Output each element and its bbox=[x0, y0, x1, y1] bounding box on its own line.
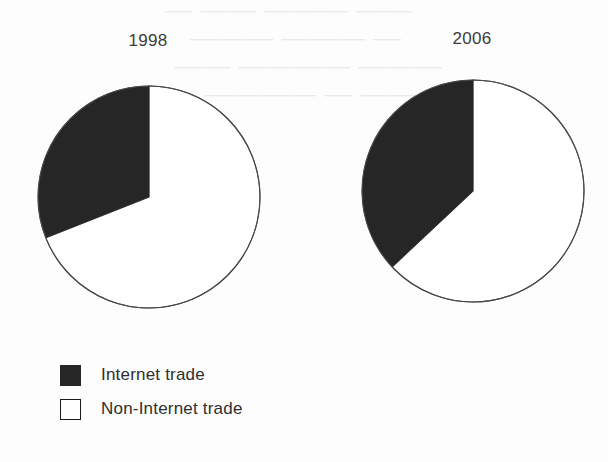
legend-label-non-internet-trade: Non-Internet trade bbox=[101, 399, 243, 419]
figure-canvas: — —— ——— —— ——— ——— — —— ———— ——— ———— —… bbox=[0, 0, 608, 462]
legend-item-internet-trade: Internet trade bbox=[60, 358, 243, 392]
legend-item-non-internet-trade: Non-Internet trade bbox=[60, 392, 243, 426]
scan-bleed-line-2: ——— ——— — bbox=[190, 22, 402, 53]
legend-swatch-filled-icon bbox=[60, 365, 81, 386]
pie-chart-1998 bbox=[35, 83, 263, 311]
pie-chart-2006 bbox=[359, 77, 587, 305]
chart-title-2006: 2006 bbox=[452, 29, 491, 49]
legend-label-internet-trade: Internet trade bbox=[101, 365, 205, 385]
chart-title-1998: 1998 bbox=[128, 31, 167, 51]
legend-swatch-empty-icon bbox=[60, 399, 81, 420]
scan-bleed-line-1: — —— ——— —— bbox=[165, 0, 412, 25]
legend: Internet trade Non-Internet trade bbox=[60, 358, 243, 426]
